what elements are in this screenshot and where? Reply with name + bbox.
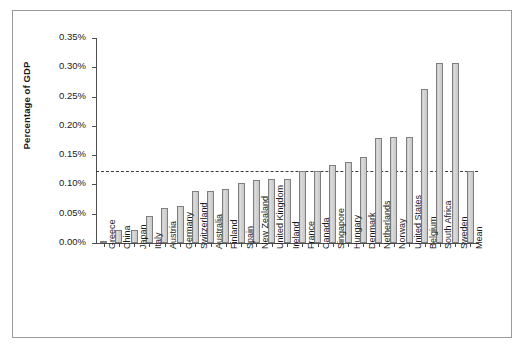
y-axis-tick-label: 0.35% xyxy=(59,31,86,42)
x-axis-tick-mark xyxy=(104,243,105,247)
x-axis-tick-mark xyxy=(333,243,334,247)
x-axis-tick-label: Singapore xyxy=(336,208,346,249)
x-axis-tick-label: United Kingdom xyxy=(275,185,285,249)
x-axis-tick-label: Spain xyxy=(245,226,255,249)
x-axis-tick-label: Finland xyxy=(229,219,239,249)
y-axis-tick-label: 0.00% xyxy=(59,236,86,247)
x-axis-tick-mark xyxy=(348,243,349,247)
x-axis-tick-mark xyxy=(425,243,426,247)
x-axis-tick-mark xyxy=(379,243,380,247)
x-axis-tick-label: Italy xyxy=(153,232,163,249)
y-axis-title: Percentage of GDP xyxy=(21,36,32,176)
y-axis-tick-label: 0.10% xyxy=(59,177,86,188)
x-axis-tick-label: Japan xyxy=(138,224,148,249)
x-axis-tick-label: New Zealand xyxy=(260,196,270,249)
y-axis-tick-label: 0.30% xyxy=(59,60,86,71)
x-axis-tick-label: Norway xyxy=(397,218,407,249)
x-axis-tick-label: Austria xyxy=(168,221,178,249)
x-axis-tick-label: Canada xyxy=(321,217,331,249)
x-axis-tick-label: South Africa xyxy=(443,200,453,249)
x-axis-tick-mark xyxy=(195,243,196,247)
x-axis-tick-mark xyxy=(440,243,441,247)
x-axis-tick-mark xyxy=(241,243,242,247)
x-axis-tick-label: Netherlands xyxy=(382,200,392,249)
chart-figure: Percentage of GDP 0.00%0.05%0.10%0.15%0.… xyxy=(0,0,524,360)
x-axis-tick-mark xyxy=(455,243,456,247)
x-axis-tick-mark xyxy=(394,243,395,247)
x-axis-tick-mark xyxy=(119,243,120,247)
y-axis-tick-label: 0.05% xyxy=(59,207,86,218)
y-axis-tick-label: 0.20% xyxy=(59,119,86,130)
y-axis-tick-label: 0.25% xyxy=(59,90,86,101)
x-axis-tick-label: Denmark xyxy=(367,212,377,249)
x-axis-tick-label: Sweden xyxy=(459,216,469,249)
x-axis-tick-label: China xyxy=(122,225,132,249)
x-axis-tick-mark xyxy=(363,243,364,247)
x-axis-tick-label: Belgium xyxy=(428,216,438,249)
y-axis-tick-mark xyxy=(92,243,96,244)
x-axis-tick-mark xyxy=(180,243,181,247)
x-axis-tick-label: United States xyxy=(413,195,423,249)
x-axis-tick-label: Australia xyxy=(214,214,224,249)
x-axis-tick-label: Greece xyxy=(107,219,117,249)
x-axis-tick-label: Switzerland xyxy=(199,202,209,249)
x-axis-tick-mark xyxy=(226,243,227,247)
x-axis-tick-mark xyxy=(272,243,273,247)
x-axis-tick-mark xyxy=(287,243,288,247)
x-axis-tick-label: France xyxy=(306,221,316,249)
x-axis-tick-label: Germany xyxy=(184,212,194,249)
x-axis-tick-mark xyxy=(302,243,303,247)
x-axis-tick-label: Ireland xyxy=(291,221,301,249)
x-axis-tick-mark xyxy=(256,243,257,247)
y-axis-tick-label: 0.15% xyxy=(59,148,86,159)
x-axis-tick-label: Mean xyxy=(474,226,484,249)
x-axis-tick-mark xyxy=(470,243,471,247)
x-axis-tick-mark xyxy=(149,243,150,247)
x-axis-tick-mark xyxy=(409,243,410,247)
x-axis-tick-mark xyxy=(318,243,319,247)
x-axis-tick-mark xyxy=(134,243,135,247)
x-axis-tick-label: Hungary xyxy=(352,215,362,249)
x-axis-tick-mark xyxy=(165,243,166,247)
x-axis-tick-mark xyxy=(211,243,212,247)
